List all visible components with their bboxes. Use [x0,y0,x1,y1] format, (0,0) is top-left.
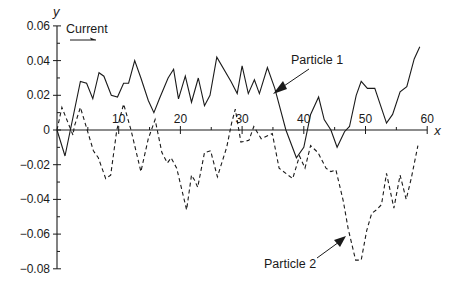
particle-1-arrow-icon [273,81,287,94]
series-layer [57,47,420,260]
current-arrow-icon [90,38,96,41]
current-label: Current [66,22,108,36]
particle-2-label: Particle 2 [264,257,316,271]
y-tick-label: 0 [43,123,50,137]
line-chart: 0.060.040.020−0.02−0.04−0.06−0.081020304… [0,0,456,291]
series-particle-2 [57,104,418,260]
particle-1-label: Particle 1 [291,53,343,67]
y-tick-label: −0.04 [20,192,51,206]
particle-1-arrow-shaft [281,69,309,88]
x-tick-label: 10 [112,112,126,126]
particle-2-arrow-icon [334,236,346,247]
y-tick-label: 0.06 [27,19,51,33]
x-tick-label: 20 [174,112,188,126]
y-tick-label: 0.04 [27,54,51,68]
series-particle-1 [57,47,420,158]
x-axis-title: x [433,123,441,138]
x-tick-label: 50 [359,112,373,126]
axes: 0.060.040.020−0.02−0.04−0.06−0.081020304… [20,4,442,276]
particle-2-arrow-shaft [317,242,339,258]
x-tick-label: 60 [421,112,435,126]
y-tick-label: −0.08 [20,262,51,276]
y-tick-label: −0.02 [20,158,51,172]
y-axis-title: y [52,4,61,19]
chart-area: 0.060.040.020−0.02−0.04−0.06−0.081020304… [0,0,456,291]
y-tick-label: 0.02 [27,88,51,102]
y-tick-label: −0.06 [20,227,51,241]
